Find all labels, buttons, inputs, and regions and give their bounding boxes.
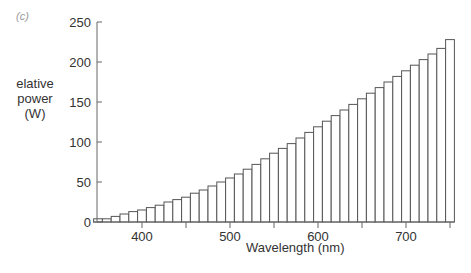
bar — [217, 182, 226, 222]
bar — [261, 159, 270, 222]
bar-chart: 050100150200250400500600700 — [0, 0, 471, 273]
y-tick-label: 50 — [77, 175, 91, 190]
bar — [358, 99, 367, 222]
bar — [120, 214, 129, 222]
bar — [296, 138, 305, 222]
bar — [314, 127, 323, 222]
bar — [252, 164, 261, 222]
bar — [155, 205, 164, 222]
bar — [402, 71, 411, 222]
bar — [446, 40, 455, 222]
x-tick-label: 700 — [395, 229, 417, 244]
bar — [243, 169, 252, 222]
bar — [199, 190, 208, 222]
x-tick-label: 400 — [131, 229, 153, 244]
bar — [305, 132, 314, 222]
y-tick-label: 200 — [69, 55, 91, 70]
bar — [419, 60, 428, 222]
bar — [331, 116, 340, 222]
y-tick-label: 150 — [69, 95, 91, 110]
bar — [349, 104, 358, 222]
bar — [138, 210, 147, 222]
bar — [287, 144, 296, 222]
bar — [278, 148, 287, 222]
bar — [410, 65, 419, 222]
bar — [428, 54, 437, 222]
bar — [190, 193, 199, 222]
y-tick-label: 0 — [84, 215, 91, 230]
bar — [234, 174, 243, 222]
x-tick-label: 500 — [219, 229, 241, 244]
bar — [146, 208, 155, 222]
bar — [366, 93, 375, 222]
bar — [173, 200, 182, 222]
bar — [340, 110, 349, 222]
x-axis-title: Wavelength (nm) — [246, 240, 345, 255]
bar — [393, 76, 402, 222]
bar — [182, 197, 191, 222]
bar — [129, 212, 138, 222]
bar — [111, 216, 120, 222]
y-tick-label: 100 — [69, 135, 91, 150]
bar — [208, 186, 217, 222]
bar — [164, 202, 173, 222]
y-tick-label: 250 — [69, 15, 91, 30]
bar — [322, 121, 331, 222]
bar — [384, 82, 393, 222]
bar — [226, 178, 235, 222]
bar — [437, 48, 446, 222]
bar — [375, 88, 384, 222]
bar — [270, 153, 279, 222]
